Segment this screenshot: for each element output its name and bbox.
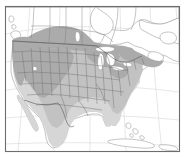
great-salt-lake — [33, 67, 37, 71]
newfoundland — [160, 32, 177, 44]
map-canvas — [0, 0, 185, 157]
range-map-figure — [0, 0, 185, 157]
coastal-islands — [9, 16, 14, 22]
coastal-islet-2 — [12, 25, 16, 29]
bahamas-islet-4 — [140, 136, 144, 140]
bahamas-islet-2 — [133, 129, 138, 134]
bahamas-islet-3 — [130, 134, 133, 138]
lake-winnipeg — [75, 32, 80, 42]
bahamas-islet-1 — [126, 123, 131, 128]
